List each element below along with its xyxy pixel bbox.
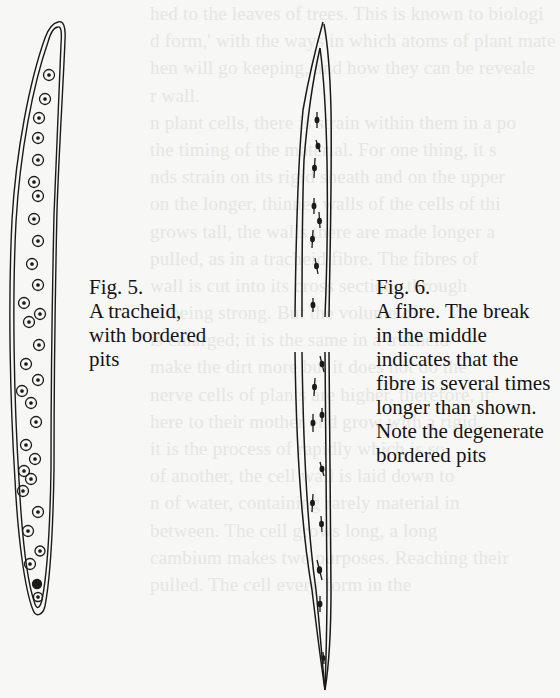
caption-line: longer than shown. <box>376 395 550 419</box>
degenerate-pits <box>311 112 325 664</box>
book-page: hed to the leaves of trees. This is know… <box>0 0 560 698</box>
caption-line: indicates that the <box>376 347 550 371</box>
caption-line: bordered pits <box>376 443 550 467</box>
caption-line: Note the degenerate <box>376 419 550 443</box>
fig5-caption: Fig. 5. A tracheid, with bordered pits <box>89 275 206 371</box>
caption-title: Fig. 5. <box>89 275 206 299</box>
fig6-caption: Fig. 6. A fibre. The break in the middle… <box>376 275 550 467</box>
caption-line: in the middle <box>376 323 550 347</box>
caption-line: A fibre. The break <box>376 299 550 323</box>
caption-line: pits <box>89 347 206 371</box>
caption-line: fibre is several times <box>376 371 550 395</box>
caption-title: Fig. 6. <box>376 275 550 299</box>
caption-line: A tracheid, <box>89 299 206 323</box>
caption-line: with bordered <box>89 323 206 347</box>
